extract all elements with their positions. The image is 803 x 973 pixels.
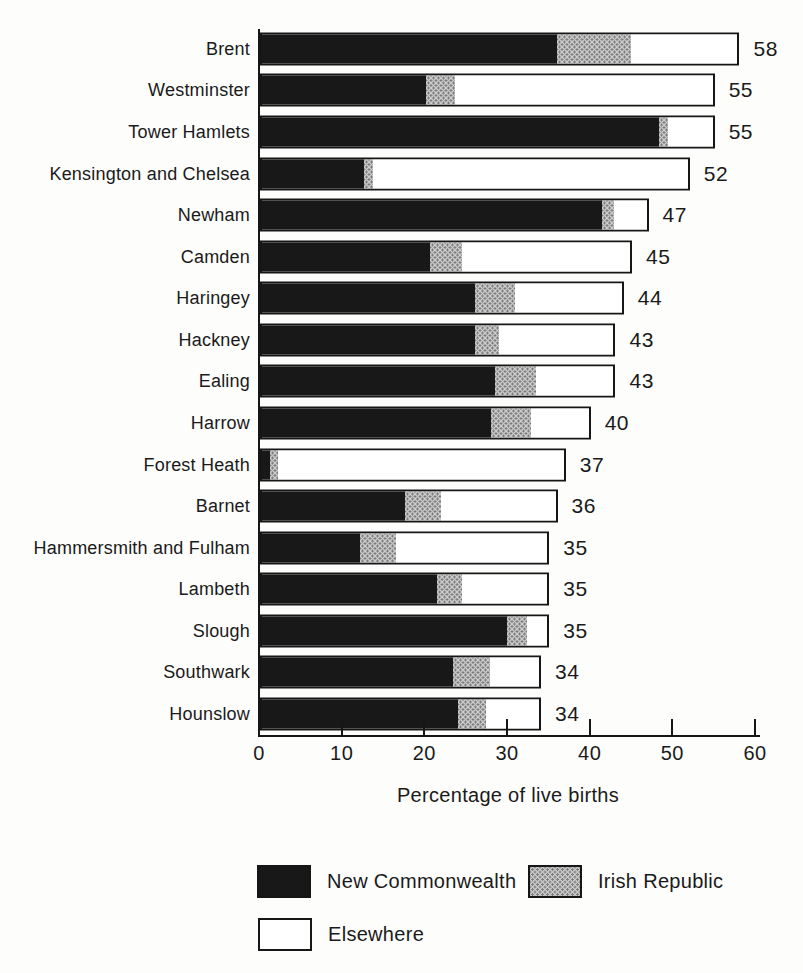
value-label: 43: [629, 328, 653, 352]
bar-row: Brent58: [0, 28, 803, 70]
segment-new-commonwealth: [262, 76, 426, 105]
segment-elsewhere: [462, 575, 548, 604]
value-label: 52: [704, 162, 728, 186]
stacked-bar: [260, 199, 649, 232]
segment-elsewhere: [536, 367, 614, 396]
legend-item-elsewhere: Elsewhere: [258, 918, 424, 951]
category-label: Newham: [178, 205, 250, 226]
bar-row: Forest Heath37: [0, 444, 803, 486]
category-label: Haringey: [176, 288, 250, 309]
segment-elsewhere: [396, 533, 547, 562]
segment-elsewhere: [490, 658, 539, 687]
segment-elsewhere: [373, 159, 688, 188]
axis-tick: [754, 719, 756, 735]
segment-irish-republic: [507, 616, 527, 645]
axis-tick-label: 40: [570, 742, 610, 765]
segment-irish-republic: [360, 533, 397, 562]
segment-new-commonwealth: [262, 284, 475, 313]
segment-new-commonwealth: [262, 325, 475, 354]
segment-irish-republic: [602, 201, 614, 230]
bar-rows: Brent58Westminster55Tower Hamlets55Kensi…: [0, 28, 803, 735]
stacked-bar: [260, 614, 549, 647]
stacked-bar: [260, 32, 739, 65]
value-label: 45: [646, 245, 670, 269]
segment-elsewhere: [486, 700, 539, 729]
bar-row: Barnet36: [0, 485, 803, 527]
axis-tick-label: 0: [239, 742, 279, 765]
stacked-bar: [260, 573, 549, 606]
bar-row: Slough35: [0, 610, 803, 652]
segment-new-commonwealth: [262, 242, 430, 271]
bar-row: Lambeth35: [0, 569, 803, 611]
value-label: 43: [629, 369, 653, 393]
category-label: Harrow: [191, 412, 250, 433]
x-axis-line: [258, 735, 760, 737]
segment-new-commonwealth: [262, 616, 507, 645]
x-axis-title: Percentage of live births: [260, 784, 756, 807]
legend-label: Elsewhere: [328, 923, 424, 946]
axis-tick: [423, 719, 425, 735]
segment-new-commonwealth: [262, 575, 437, 604]
category-label: Ealing: [199, 371, 250, 392]
category-label: Camden: [181, 246, 250, 267]
new-commonwealth-swatch-icon: [257, 865, 311, 898]
category-label: Barnet: [196, 496, 250, 517]
bar-row: Westminster55: [0, 70, 803, 112]
legend-item-irish-republic: Irish Republic: [528, 865, 723, 898]
value-label: 36: [572, 494, 596, 518]
segment-irish-republic: [437, 575, 461, 604]
stacked-bar: [260, 157, 690, 190]
axis-tick: [341, 719, 343, 735]
value-label: 40: [605, 411, 629, 435]
segment-irish-republic: [364, 159, 372, 188]
segment-new-commonwealth: [262, 533, 360, 562]
stacked-bar-chart: Brent58Westminster55Tower Hamlets55Kensi…: [0, 0, 803, 973]
segment-new-commonwealth: [262, 367, 495, 396]
category-label: Hammersmith and Fulham: [34, 537, 250, 558]
stacked-bar: [260, 531, 549, 564]
category-label: Kensington and Chelsea: [49, 163, 250, 184]
segment-elsewhere: [441, 492, 555, 521]
segment-elsewhere: [462, 242, 630, 271]
bar-row: Newham47: [0, 194, 803, 236]
stacked-bar: [260, 656, 541, 689]
bar-row: Kensington and Chelsea52: [0, 153, 803, 195]
axis-tick: [671, 719, 673, 735]
axis-tick-label: 10: [322, 742, 362, 765]
segment-new-commonwealth: [262, 450, 270, 479]
segment-irish-republic: [430, 242, 463, 271]
stacked-bar: [260, 365, 615, 398]
legend-label: New Commonwealth: [327, 870, 516, 893]
segment-irish-republic: [495, 367, 536, 396]
category-label: Slough: [193, 620, 250, 641]
segment-new-commonwealth: [262, 408, 491, 437]
stacked-bar: [260, 406, 591, 439]
value-label: 47: [663, 203, 687, 227]
value-label: 35: [563, 619, 587, 643]
category-label: Hounslow: [169, 704, 250, 725]
stacked-bar: [260, 323, 615, 356]
segment-new-commonwealth: [262, 492, 405, 521]
segment-irish-republic: [453, 658, 490, 687]
segment-irish-republic: [475, 325, 500, 354]
axis-tick-label: 20: [404, 742, 444, 765]
axis-tick: [589, 719, 591, 735]
segment-elsewhere: [531, 408, 588, 437]
axis-tick-label: 60: [735, 742, 775, 765]
value-label: 35: [563, 536, 587, 560]
segment-elsewhere: [668, 117, 713, 146]
segment-irish-republic: [426, 76, 455, 105]
bar-row: Hounslow34: [0, 693, 803, 735]
category-label: Brent: [206, 38, 250, 59]
segment-new-commonwealth: [262, 34, 557, 63]
value-label: 55: [729, 120, 753, 144]
irish-republic-swatch-icon: [528, 865, 582, 898]
value-label: 44: [638, 286, 662, 310]
segment-irish-republic: [557, 34, 631, 63]
value-label: 34: [555, 702, 579, 726]
segment-new-commonwealth: [262, 159, 364, 188]
bar-row: Hammersmith and Fulham35: [0, 527, 803, 569]
value-label: 37: [580, 453, 604, 477]
value-label: 35: [563, 577, 587, 601]
legend-label: Irish Republic: [598, 870, 723, 893]
